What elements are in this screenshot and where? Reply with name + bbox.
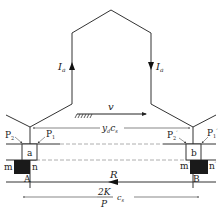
- ground-hatch-icon: [75, 114, 92, 118]
- coil-diagram: Ia Ia v ydcs a b R P2 P1 P2′ P1′ m n m′ …: [0, 0, 222, 213]
- slot-a-label: a: [27, 148, 33, 158]
- p2-label: P2: [5, 130, 14, 141]
- diagram-canvas: Ia Ia v ydcs a b R P2 P1 P2′ P1′ m n m′ …: [0, 0, 222, 213]
- point-b-label: B: [193, 174, 200, 184]
- current-left-label: Ia: [57, 61, 66, 73]
- velocity-label: v: [108, 101, 114, 112]
- p2-prime-pointer: [179, 138, 186, 143]
- frac-denominator: P: [100, 199, 108, 209]
- m-left-label: m: [4, 162, 13, 172]
- current-right-label: Ia: [155, 61, 164, 73]
- frac-numerator: 2K: [97, 187, 112, 197]
- coil-left-end: [6, 115, 30, 127]
- current-up-arrow-icon: [69, 62, 75, 70]
- current-down-arrow-icon: [148, 62, 154, 70]
- p1-pointer: [38, 137, 45, 143]
- n-right-label: n′: [209, 160, 217, 171]
- pole-left: [14, 160, 30, 174]
- p1-prime-pointer: [202, 137, 208, 143]
- p1-label: P1: [46, 129, 55, 140]
- frac-c-label: cs: [117, 193, 124, 203]
- p2-pointer: [15, 137, 22, 143]
- p1-prime-label: P1′: [207, 127, 218, 139]
- point-a-label: A: [23, 174, 31, 184]
- p2-prime-label: P2′: [167, 129, 178, 141]
- slot-b-label: b: [191, 148, 197, 158]
- n-left-label: n: [32, 162, 38, 172]
- pole-right: [190, 160, 208, 174]
- pitch-label: ydcs: [101, 123, 118, 134]
- force-label: R: [109, 169, 118, 180]
- coil-right-end: [193, 115, 216, 127]
- m-right-label: m′: [180, 160, 191, 171]
